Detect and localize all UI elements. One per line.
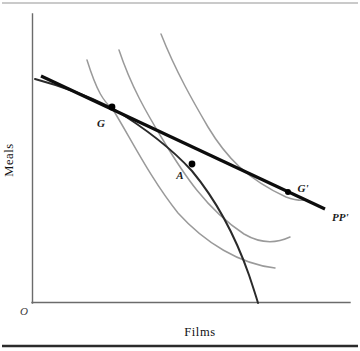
point-g-marker <box>109 104 116 111</box>
point-g-prime-label: G' <box>298 182 309 194</box>
x-axis-title: Films <box>184 325 216 339</box>
point-a-label: A <box>175 169 183 181</box>
origin-label: O <box>20 305 28 317</box>
economics-diagram: G A G' PP' O Films Meals <box>0 0 360 351</box>
price-line-label: PP' <box>332 211 349 223</box>
point-a-marker <box>189 161 196 168</box>
point-g-prime-marker <box>285 189 291 195</box>
point-g-label: G <box>97 117 105 129</box>
figure-canvas: G A G' PP' O Films Meals <box>0 0 360 351</box>
y-axis-title: Meals <box>2 143 16 177</box>
